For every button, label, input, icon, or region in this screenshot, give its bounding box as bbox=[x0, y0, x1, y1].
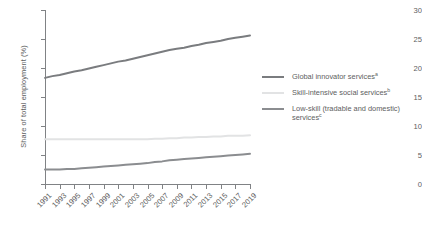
legend-item-2[interactable]: Skill-intensive social servicesb bbox=[262, 88, 420, 97]
legend-swatch-icon-3 bbox=[262, 108, 284, 110]
chart-legend: Global innovator servicesaSkill-intensiv… bbox=[262, 72, 420, 129]
series-line-1 bbox=[45, 36, 250, 78]
series-line-2 bbox=[45, 135, 250, 139]
legend-footnote-marker-2: b bbox=[387, 86, 390, 92]
legend-label-1: Global innovator servicesa bbox=[292, 72, 378, 81]
legend-footnote-marker-1: a bbox=[375, 71, 378, 77]
legend-item-3[interactable]: Low-skill (tradable and domestic) servic… bbox=[262, 104, 420, 123]
legend-label-3: Low-skill (tradable and domestic) servic… bbox=[292, 104, 400, 122]
series-line-3 bbox=[45, 154, 250, 170]
legend-footnote-marker-3: c bbox=[319, 112, 322, 118]
legend-swatch-icon-2 bbox=[262, 92, 284, 94]
line-chart: Share of total employment (%) 0510152025… bbox=[0, 0, 422, 229]
legend-swatch-icon-1 bbox=[262, 76, 284, 78]
legend-label-2: Skill-intensive social servicesb bbox=[292, 88, 390, 97]
legend-item-1[interactable]: Global innovator servicesa bbox=[262, 72, 420, 81]
